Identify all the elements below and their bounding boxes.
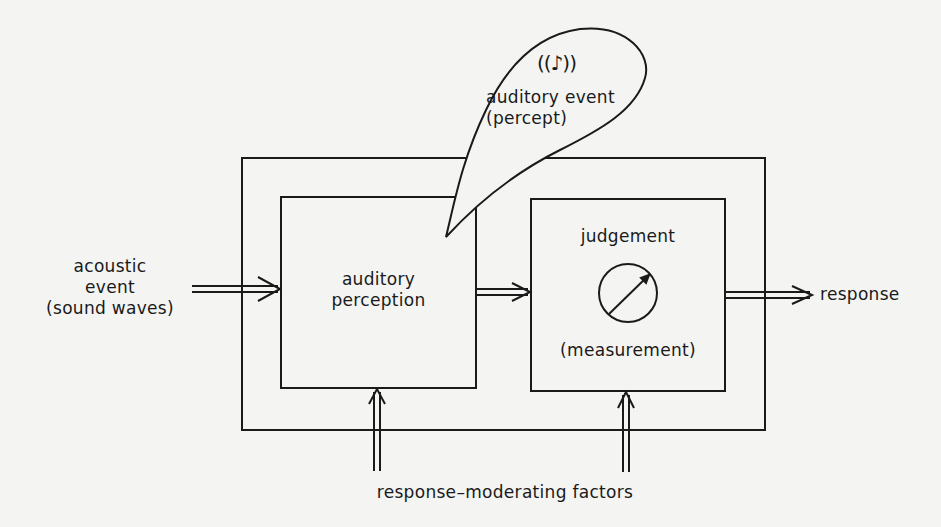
input-label-line3: (sound waves): [30, 298, 190, 319]
percept-label-line1: auditory event: [486, 87, 615, 108]
input-label-line2: event: [35, 277, 185, 298]
input-arrow: [192, 277, 280, 301]
moderators-label: response–moderating factors: [340, 482, 670, 503]
input-label-line1: acoustic: [35, 256, 185, 277]
moderator-arrow-judgement: [618, 392, 634, 472]
judgement-subtitle: (measurement): [531, 340, 725, 361]
response-label: response: [820, 284, 900, 305]
perception-to-judgement-arrow: [476, 283, 530, 301]
perception-label-line2: perception: [281, 290, 476, 311]
judgement-title: judgement: [531, 226, 725, 247]
output-arrow: [725, 286, 812, 304]
perception-label-line1: auditory: [281, 269, 476, 290]
music-note-icon: ((♪)): [537, 51, 576, 75]
percept-label-line2: (percept): [486, 108, 567, 129]
